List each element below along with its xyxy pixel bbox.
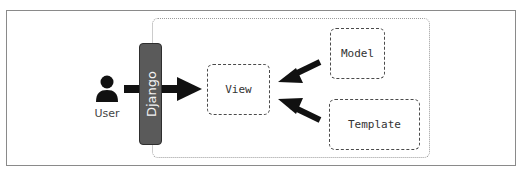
flow-arrows	[0, 0, 527, 174]
request-arrow-head	[177, 77, 202, 101]
django-label: Django	[143, 71, 158, 117]
django-bar: Django	[139, 43, 162, 145]
